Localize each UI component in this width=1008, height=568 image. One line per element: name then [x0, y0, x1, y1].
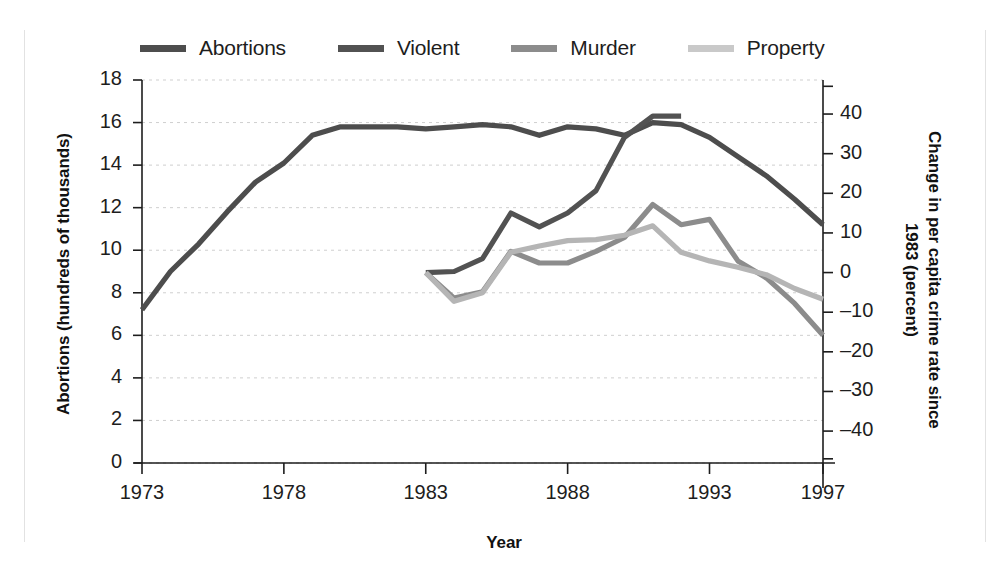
x-axis-tick-label: 1993 [675, 481, 745, 504]
y-axis-right-tick-label: –30 [840, 378, 884, 401]
x-axis-tick-label: 1973 [107, 481, 177, 504]
y-axis-right-tick-label: 20 [840, 180, 884, 203]
x-axis-tick-label: 1988 [533, 481, 603, 504]
x-axis-tick-label: 1983 [391, 481, 461, 504]
series-line-abortions[interactable] [142, 123, 823, 310]
y-axis-left-tick-label: 12 [82, 195, 122, 218]
y-axis-left-tick-label: 8 [82, 280, 122, 303]
y-axis-left-tick-label: 14 [82, 152, 122, 175]
y-axis-right-tick-label: –40 [840, 418, 884, 441]
line-chart: Abortions Violent Murder Property Aborti… [0, 0, 1008, 568]
y-axis-left-tick-label: 6 [82, 322, 122, 345]
y-axis-right-tick-label: –10 [840, 299, 884, 322]
series-line-murder[interactable] [426, 205, 823, 336]
y-axis-left-tick-label: 0 [82, 450, 122, 473]
y-axis-left-tick-label: 4 [82, 365, 122, 388]
y-axis-left-tick-label: 10 [82, 237, 122, 260]
series-line-property[interactable] [426, 226, 823, 301]
y-axis-left-tick-label: 18 [82, 67, 122, 90]
y-axis-right-tick-label: –20 [840, 339, 884, 362]
y-axis-right-tick-label: 30 [840, 141, 884, 164]
y-axis-right-tick-label: 0 [840, 260, 884, 283]
figure-page: Abortions Violent Murder Property Aborti… [0, 0, 1008, 568]
x-axis-tick-label: 1997 [788, 481, 858, 504]
y-axis-left-tick-label: 2 [82, 407, 122, 430]
x-axis-tick-label: 1978 [249, 481, 319, 504]
y-axis-right-tick-label: 40 [840, 101, 884, 124]
series-line-violent[interactable] [426, 116, 681, 272]
y-axis-right-tick-label: 10 [840, 220, 884, 243]
y-axis-left-tick-label: 16 [82, 110, 122, 133]
